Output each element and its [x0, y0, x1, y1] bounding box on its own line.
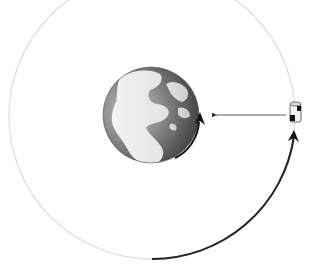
geostationary-orbit-diagram [0, 0, 312, 272]
satellite-icon [290, 102, 301, 122]
